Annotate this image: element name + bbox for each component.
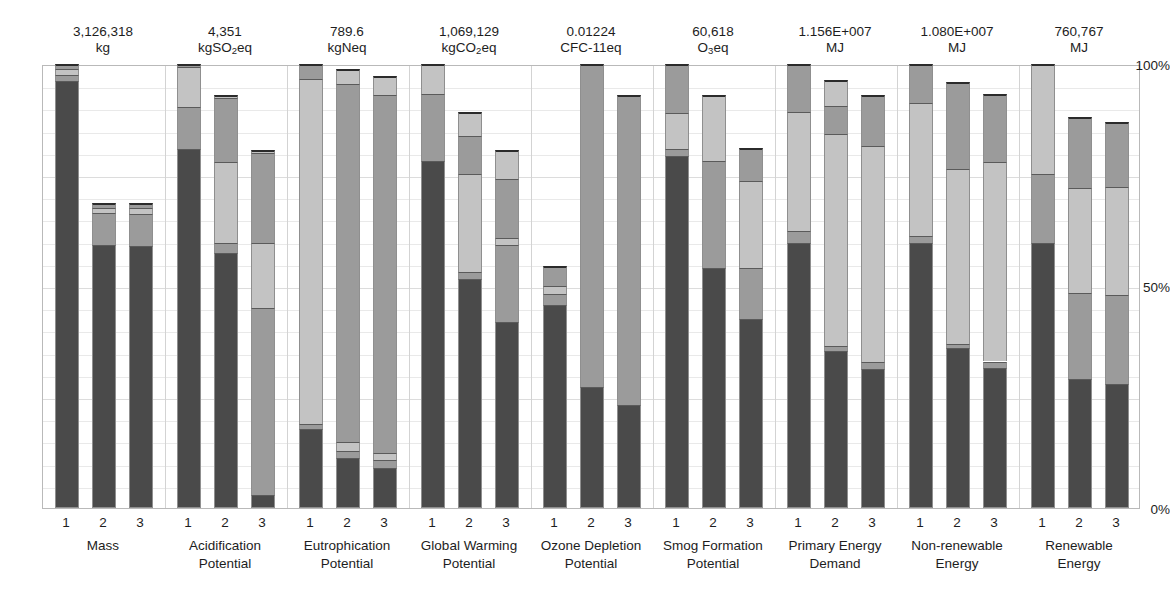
bar-segment [1068,379,1092,508]
bar-segment [373,460,397,468]
bar-segment [739,268,763,319]
bar-segment [251,150,275,153]
bar-smog-formation-potential-s3[interactable] [739,148,763,508]
bar-mass-s3[interactable] [129,203,153,508]
group-value: 4,351 [208,24,242,39]
bar-global-warming-potential-s3[interactable] [495,150,519,508]
bar-segment [336,69,360,84]
group-separator [165,66,166,508]
bar-eutrophication-potential-s3[interactable] [373,76,397,508]
bar-mass-s1[interactable] [55,64,79,508]
bar-segment [177,64,201,67]
bar-segment [214,253,238,508]
bar-segment [214,98,238,162]
bar-segment [458,279,482,508]
bar-segment [739,319,763,508]
bar-segment [214,162,238,243]
x-axis-scenario-label: 1 [656,515,696,530]
bar-segment [495,150,519,179]
bar-segment [665,156,689,508]
x-axis-scenario-label: 1 [290,515,330,530]
group-separator [1019,66,1020,508]
bar-segment [251,308,275,494]
group-separator [409,66,410,508]
x-axis-scenario-label: 2 [449,515,489,530]
bar-segment [421,161,445,508]
bar-segment [129,214,153,247]
x-axis-scenario-label: 3 [608,515,648,530]
bar-segment [421,94,445,161]
group-separator [775,66,776,508]
bar-segment [1031,243,1055,508]
bar-primary-energy-demand-s3[interactable] [861,95,885,508]
bar-segment [336,84,360,441]
bar-segment [861,369,885,508]
x-axis-scenario-label: 3 [120,515,160,530]
bar-segment [129,246,153,508]
bar-segment [861,146,885,362]
y-axis-tick-0: 0% [1134,502,1170,517]
bar-eutrophication-potential-s2[interactable] [336,69,360,508]
bar-smog-formation-potential-s2[interactable] [702,95,726,508]
bar-eutrophication-potential-s1[interactable] [299,64,323,508]
bar-segment [214,243,238,253]
x-axis-scenario-label: 1 [46,515,86,530]
bar-segment [824,351,848,508]
bar-segment [55,64,79,69]
bar-non-renewable-energy-s3[interactable] [983,94,1007,508]
bar-segment [824,106,848,134]
x-axis-scenario-label: 3 [852,515,892,530]
bar-ozone-depletion-potential-s2[interactable] [580,64,604,508]
bar-segment [543,286,567,294]
bar-segment [1068,293,1092,379]
bar-segment [1105,122,1129,188]
bar-smog-formation-potential-s1[interactable] [665,64,689,508]
bar-segment [702,268,726,508]
bar-segment [909,236,933,243]
bar-global-warming-potential-s2[interactable] [458,112,482,508]
bar-segment [909,64,933,103]
bar-segment [739,181,763,268]
bar-segment [373,95,397,453]
group-separator [897,66,898,508]
x-axis-scenario-label: 3 [1096,515,1136,530]
bar-ozone-depletion-potential-s1[interactable] [543,266,567,508]
bar-mass-s2[interactable] [92,203,116,508]
x-axis-scenario-label: 1 [1022,515,1062,530]
bar-segment [421,64,445,94]
x-axis-scenario-label: 2 [327,515,367,530]
bar-segment [946,348,970,508]
bar-primary-energy-demand-s1[interactable] [787,64,811,508]
group-separator [531,66,532,508]
bar-segment [580,387,604,508]
bar-global-warming-potential-s1[interactable] [421,64,445,508]
bar-segment [55,81,79,508]
bar-segment [129,203,153,208]
bar-segment [373,76,397,95]
x-axis-scenario-label: 2 [815,515,855,530]
bar-acidification-potential-s2[interactable] [214,95,238,508]
x-axis-scenario-label: 3 [974,515,1014,530]
bar-renewable-energy-s3[interactable] [1105,122,1129,508]
bar-segment [1068,188,1092,293]
bar-segment [251,495,275,508]
bar-primary-energy-demand-s2[interactable] [824,80,848,508]
bar-renewable-energy-s2[interactable] [1068,117,1092,508]
bar-segment [909,103,933,236]
bar-segment [177,107,201,149]
bar-segment [495,179,519,238]
bar-segment [177,67,201,107]
group-value: 789.6 [330,24,364,39]
bar-renewable-energy-s1[interactable] [1031,64,1055,508]
group-separator [653,66,654,508]
x-axis-scenario-label: 1 [778,515,818,530]
bar-acidification-potential-s1[interactable] [177,64,201,508]
plot-area [42,65,1140,509]
bar-ozone-depletion-potential-s3[interactable] [617,95,641,508]
bar-non-renewable-energy-s2[interactable] [946,82,970,508]
group-header-renewable-energy: 760,767MJ [999,24,1159,56]
bar-segment [458,272,482,279]
group-value: 1,069,129 [439,24,499,39]
bar-acidification-potential-s3[interactable] [251,150,275,508]
bar-non-renewable-energy-s1[interactable] [909,64,933,508]
